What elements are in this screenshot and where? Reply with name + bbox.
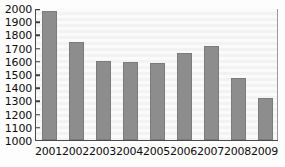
- x-axis-tick-mark: [50, 140, 52, 141]
- y-axis-tick-mark: [36, 21, 40, 23]
- x-axis-tick-label: 2004: [116, 146, 143, 158]
- x-axis-tick-mark: [239, 140, 241, 141]
- y-axis-tick-mark: [36, 48, 40, 50]
- y-axis-tick-label-group: 1000110012001300140015001600170018001900…: [0, 9, 34, 141]
- plot-area: [35, 9, 278, 141]
- y-axis-tick-label: 1400: [5, 83, 32, 94]
- y-axis-tick-label: 1900: [5, 17, 32, 28]
- y-axis-tick-label: 1200: [5, 109, 32, 120]
- x-axis-tick-label-group: 200120022003200420052006200720082009: [35, 146, 278, 162]
- bar-2007: [204, 46, 218, 140]
- x-axis-tick-mark: [104, 140, 106, 141]
- y-axis-tick-label: 1000: [5, 136, 32, 147]
- x-axis-tick-label: 2008: [224, 146, 251, 158]
- x-axis-tick-label: 2006: [170, 146, 197, 158]
- bar-2008: [231, 78, 245, 140]
- y-axis-tick-mark: [36, 114, 40, 116]
- y-axis-tick-label: 1300: [5, 96, 32, 107]
- x-axis-tick-mark: [158, 140, 160, 141]
- y-axis-tick-mark: [36, 87, 40, 89]
- x-axis-tick-mark: [212, 140, 214, 141]
- y-axis-tick-mark: [36, 35, 40, 37]
- x-axis-tick-mark: [131, 140, 133, 141]
- x-axis-tick-label: 2001: [35, 146, 62, 158]
- y-axis-tick-label: 1600: [5, 56, 32, 67]
- plot-right-border: [277, 9, 279, 140]
- y-axis-tick-mark: [36, 101, 40, 103]
- y-axis-tick-mark: [36, 9, 40, 10]
- bar-2002: [69, 42, 83, 140]
- x-axis-tick-mark: [266, 140, 268, 141]
- x-axis-tick-label: 2002: [62, 146, 89, 158]
- y-axis-tick-mark: [36, 140, 40, 141]
- x-axis-tick-label: 2009: [251, 146, 278, 158]
- bar-2006: [177, 53, 191, 140]
- x-axis-tick-label: 2005: [143, 146, 170, 158]
- y-axis-tick-label: 1700: [5, 43, 32, 54]
- x-axis-tick-mark: [77, 140, 79, 141]
- bar-2009: [258, 98, 272, 140]
- bar-chart-figure: 1000110012001300140015001600170018001900…: [0, 0, 285, 167]
- x-axis-tick-label: 2007: [197, 146, 224, 158]
- bar-2005: [150, 63, 164, 140]
- y-axis-tick-label: 1100: [5, 122, 32, 133]
- x-axis-tick-label: 2003: [89, 146, 116, 158]
- y-axis-tick-mark: [36, 74, 40, 76]
- x-axis-tick-mark: [185, 140, 187, 141]
- bar-2003: [96, 61, 110, 140]
- y-axis-tick-label: 1500: [5, 70, 32, 81]
- bar-2004: [123, 62, 137, 140]
- y-axis-tick-mark: [36, 61, 40, 63]
- y-axis-tick-label: 1800: [5, 30, 32, 41]
- y-axis-tick-mark: [36, 127, 40, 129]
- y-axis-tick-label: 2000: [5, 4, 32, 15]
- bar-2001: [42, 11, 56, 140]
